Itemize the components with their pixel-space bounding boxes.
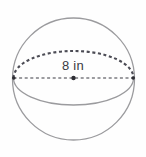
sphere-drawing: [0, 0, 146, 157]
endpoint-dot-icon-left: [12, 76, 16, 80]
solid-arc-icon: [14, 78, 134, 105]
center-dot-icon: [71, 76, 75, 80]
diameter-label: 8 in: [0, 58, 146, 73]
sphere-figure: 8 in: [0, 0, 146, 157]
endpoint-dot-icon-right: [131, 76, 135, 80]
